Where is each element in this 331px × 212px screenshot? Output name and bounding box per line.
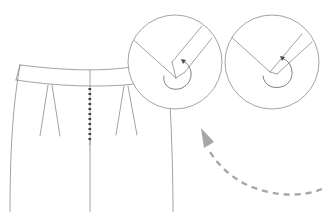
right-dart [116, 86, 137, 135]
waistband-top-edge [20, 65, 132, 70]
center-zipper [89, 70, 92, 150]
diagram-canvas [0, 0, 331, 212]
arrow-up-left-icon [201, 128, 214, 148]
garment-diagram [0, 0, 331, 212]
left-side-seam [10, 65, 20, 212]
callout-circle [225, 15, 319, 109]
waistband [16, 65, 135, 86]
left-dart [40, 85, 60, 136]
detail-callout-2 [225, 15, 319, 109]
detail-callout-1 [128, 15, 222, 109]
right-side-seam [170, 105, 173, 212]
callout-circle [128, 15, 222, 109]
dashed-arrow [201, 128, 322, 195]
dashed-arrow-path [208, 148, 322, 195]
waistband-bottom-edge [16, 80, 135, 86]
